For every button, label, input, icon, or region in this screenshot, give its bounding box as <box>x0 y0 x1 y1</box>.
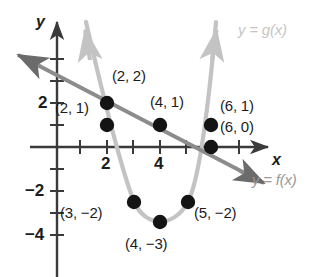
point-label-6-0: (6, 0) <box>220 119 254 134</box>
point-label-2-1: (2, 1) <box>55 100 89 115</box>
point-marker <box>100 118 114 132</box>
graph-figure: y x 2 −2 −4 2 4 (2, 2) (2, 1) (4, 1) (6,… <box>0 0 333 277</box>
y-tick-label-neg2: −2 <box>25 182 44 199</box>
point-marker <box>204 140 218 154</box>
point-label-3-neg2: (3, −2) <box>60 205 102 220</box>
point-marker <box>127 195 141 209</box>
y-tick-label-2: 2 <box>38 94 47 111</box>
parabola-g-arrow-right <box>212 30 217 60</box>
function-label-g: y = g(x) <box>238 22 287 37</box>
point-marker <box>153 215 167 229</box>
function-label-f: y = f(x) <box>252 172 297 187</box>
point-marker <box>153 118 167 132</box>
point-label-4-neg3: (4, −3) <box>125 236 167 251</box>
x-axis <box>30 140 268 154</box>
point-label-2-2: (2, 2) <box>112 68 146 83</box>
x-axis-label: x <box>272 152 281 168</box>
y-axis-label: y <box>36 14 45 30</box>
y-axis <box>50 22 64 277</box>
point-marker <box>204 118 218 132</box>
x-tick-label-2: 2 <box>101 155 110 172</box>
y-tick-label-neg4: −4 <box>25 226 44 243</box>
point-label-5-neg2: (5, −2) <box>194 205 236 220</box>
line-f-arrow-left <box>18 55 40 66</box>
x-tick-label-4: 4 <box>154 155 163 172</box>
point-label-4-1: (4, 1) <box>150 94 184 109</box>
point-marker <box>100 96 114 110</box>
point-label-6-1: (6, 1) <box>220 98 254 113</box>
